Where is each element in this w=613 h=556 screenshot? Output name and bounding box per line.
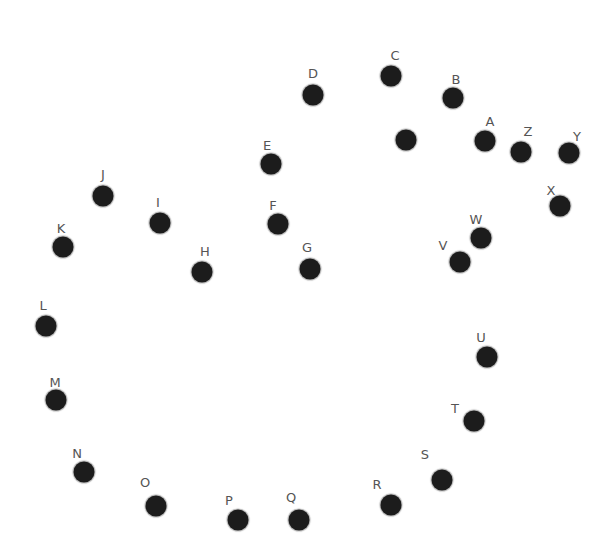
dot-label-y: Y bbox=[573, 130, 581, 143]
dot-a[interactable] bbox=[475, 131, 496, 152]
dot-label-g: G bbox=[302, 241, 312, 254]
dot-label-v: V bbox=[439, 239, 448, 252]
dot-label-c: C bbox=[390, 49, 399, 62]
dot-label-l: L bbox=[39, 299, 46, 312]
dot-m[interactable] bbox=[46, 390, 67, 411]
dot-o[interactable] bbox=[146, 496, 167, 517]
dot-n[interactable] bbox=[74, 462, 95, 483]
dot-label-b: B bbox=[452, 73, 461, 86]
dot-h[interactable] bbox=[192, 262, 213, 283]
dot-label-e: E bbox=[263, 139, 271, 152]
dot-label-d: D bbox=[308, 67, 318, 80]
dot-label-m: M bbox=[49, 376, 60, 389]
dot-label-t: T bbox=[451, 402, 459, 415]
dot-d[interactable] bbox=[303, 85, 324, 106]
dot-label-a: A bbox=[486, 115, 495, 128]
dot-label-q: Q bbox=[286, 491, 296, 504]
dot-y[interactable] bbox=[559, 143, 580, 164]
dot-label-k: K bbox=[57, 222, 66, 235]
dot-label-p: P bbox=[225, 494, 233, 507]
dot-p[interactable] bbox=[228, 510, 249, 531]
dot-label-i: I bbox=[156, 196, 160, 209]
dot-f[interactable] bbox=[268, 214, 289, 235]
dot-s[interactable] bbox=[432, 470, 453, 491]
dot-label-h: H bbox=[200, 245, 210, 258]
dot-puzzle-canvas: ABCDEFGHIJKLMNOPQRSTUVWXYZ bbox=[0, 0, 613, 556]
dot-k[interactable] bbox=[53, 237, 74, 258]
dot-label-s: S bbox=[421, 448, 429, 461]
dot-g[interactable] bbox=[300, 259, 321, 280]
dot-c[interactable] bbox=[381, 66, 402, 87]
dot-u[interactable] bbox=[477, 347, 498, 368]
dot-label-w: W bbox=[470, 213, 483, 226]
dot-label-n: N bbox=[72, 447, 82, 460]
dot-unlabeled[interactable] bbox=[396, 130, 417, 151]
dot-x[interactable] bbox=[550, 196, 571, 217]
dot-l[interactable] bbox=[36, 316, 57, 337]
dot-r[interactable] bbox=[381, 495, 402, 516]
dot-label-r: R bbox=[372, 478, 381, 491]
dot-z[interactable] bbox=[511, 142, 532, 163]
dot-j[interactable] bbox=[93, 186, 114, 207]
dot-label-x: X bbox=[547, 184, 556, 197]
dot-v[interactable] bbox=[450, 252, 471, 273]
dot-b[interactable] bbox=[443, 88, 464, 109]
dot-label-j: J bbox=[101, 168, 105, 181]
dot-q[interactable] bbox=[289, 510, 310, 531]
dot-label-o: O bbox=[140, 476, 150, 489]
dot-e[interactable] bbox=[261, 154, 282, 175]
dot-i[interactable] bbox=[150, 213, 171, 234]
dot-label-z: Z bbox=[524, 125, 533, 138]
dot-label-u: U bbox=[476, 331, 486, 344]
dot-w[interactable] bbox=[471, 228, 492, 249]
dot-t[interactable] bbox=[464, 411, 485, 432]
dot-label-f: F bbox=[269, 199, 276, 212]
